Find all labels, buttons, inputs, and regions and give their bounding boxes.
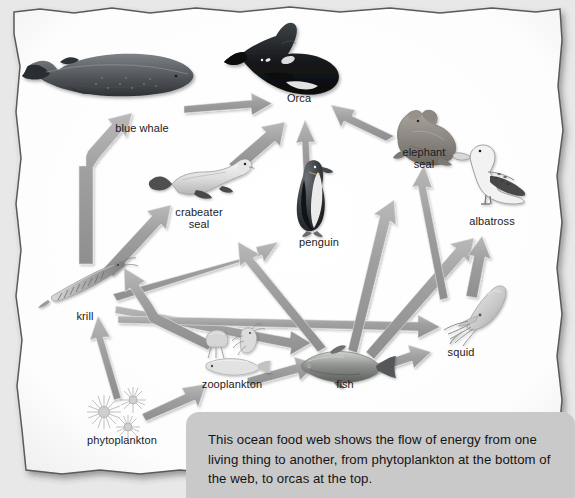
caption-text: This ocean food web shows the flow of en… (208, 430, 559, 489)
food-web-diagram: blue whale Orca elephant seal albatross … (0, 0, 575, 498)
caption-box: This ocean food web shows the flow of en… (186, 412, 575, 498)
